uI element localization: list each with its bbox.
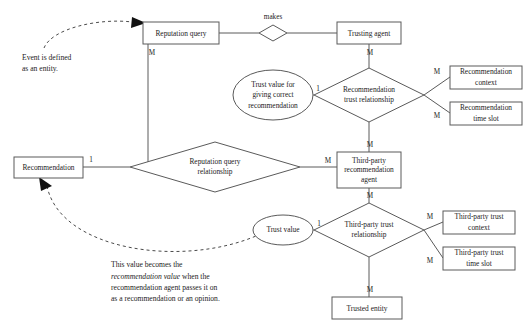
entity-third-party-trust-context[interactable]: Third-party trust context [443, 211, 515, 234]
entity-recommendation-context-label-line1: Recommendation [460, 67, 512, 76]
edge-rtr-to-recommendation-time-slot [424, 95, 450, 113]
cardinality-trust-value-correct-rec: 1 [316, 85, 320, 93]
event-note-connector [44, 21, 132, 48]
entity-trusted-entity[interactable]: Trusted entity [332, 297, 402, 319]
entity-recommendation-time-slot-label-line2: time slot [473, 114, 500, 123]
cardinality-recommendation-time-slot: M [434, 112, 441, 120]
entity-tp-trust-context-label-line2: context [468, 223, 491, 232]
annotation-recommendation-value-note-line1: This value becomes the [111, 260, 183, 269]
attribute-trust-value-label: Trust value [266, 225, 300, 234]
er-diagram-canvas: Reputation query Trusting agent Recommen… [0, 0, 527, 331]
entity-tp-trust-context-label-line1: Third-party trust [454, 212, 504, 221]
entity-trusted-entity-label: Trusted entity [347, 304, 388, 313]
annotation-event-note-line2: as an entity. [22, 64, 58, 73]
entity-third-party-recommendation-agent[interactable]: Third-party recommendation agent [337, 152, 401, 188]
annotation-line2-tail: when the [180, 271, 210, 280]
annotation-event-note-line1: Event is defined [22, 53, 72, 62]
relationship-recommendation-trust-label-line2: trust relationship [344, 95, 394, 104]
cardinality-trust-value: 1 [317, 220, 321, 228]
recommendation-value-note-arrowhead [39, 177, 52, 191]
relationship-reputation-query-label-line2: relationship [198, 167, 233, 176]
cardinality-tp-trust-context: M [427, 213, 434, 221]
entity-reputation-query-label: Reputation query [155, 29, 206, 38]
edge-tptr-to-tp-trust-time-slot [424, 230, 443, 258]
edge-tptr-to-tp-trust-context [424, 222, 443, 230]
annotation-recommendation-value-note-line3: recommendation agent passes it on [111, 283, 217, 292]
relationship-reputation-query-label-line1: Reputation query [189, 157, 240, 166]
relationship-reputation-query[interactable]: Reputation query relationship [130, 142, 300, 192]
entity-trusting-agent-label: Trusting agent [348, 29, 392, 38]
entity-tpra-label-line1: Third-party [352, 156, 386, 165]
relationship-third-party-trust[interactable]: Third-party trust relationship [314, 203, 424, 257]
entity-recommendation[interactable]: Recommendation [14, 157, 83, 178]
er-diagram: Reputation query Trusting agent Recommen… [0, 0, 527, 331]
entity-trusting-agent[interactable]: Trusting agent [337, 22, 401, 44]
entity-recommendation-time-slot[interactable]: Recommendation time slot [450, 102, 522, 125]
cardinality-tpra-left: M [325, 157, 332, 165]
relationship-makes-label: makes [264, 13, 283, 21]
annotation-recommendation-value-note-line4: as a recommendation or an opinion. [111, 294, 220, 303]
entity-recommendation-context[interactable]: Recommendation context [450, 66, 522, 89]
entity-tpra-label-line3: agent [361, 175, 378, 184]
entity-reputation-query[interactable]: Reputation query [143, 22, 219, 44]
cardinality-recommendation-context: M [434, 68, 441, 76]
annotation-event-note: Event is defined as an entity. [22, 53, 72, 73]
entity-tpra-label-line2: recommendation [344, 165, 394, 174]
attribute-trust-value[interactable]: Trust value [253, 215, 313, 245]
cardinality-trusting-agent-down: M [367, 49, 374, 57]
cardinality-tpra-bottom: M [367, 192, 374, 200]
entity-recommendation-label: Recommendation [22, 163, 74, 172]
relationship-recommendation-trust-label-line1: Recommendation [343, 85, 395, 94]
cardinality-tp-trust-time-slot: M [427, 257, 434, 265]
entity-tp-trust-time-slot-label-line1: Third-party trust [454, 248, 504, 257]
annotation-recommendation-value-note: This value becomes the recommendation va… [111, 260, 220, 304]
entity-third-party-trust-time-slot[interactable]: Third-party trust time slot [443, 247, 515, 270]
attribute-trust-value-for-giving-correct-recommendation[interactable]: Trust value for giving correct recommend… [233, 70, 313, 120]
recommendation-value-note-connector [47, 186, 256, 251]
cardinality-trusted-entity: M [367, 286, 374, 294]
attribute-trust-value-correct-rec-label-line2: giving correct [252, 90, 294, 99]
annotation-recommendation-value-note-line2: recommendation value when the [111, 271, 210, 280]
cardinality-tpra-top: M [367, 141, 374, 149]
relationship-third-party-trust-label-line2: relationship [352, 230, 387, 239]
entity-recommendation-context-label-line2: context [475, 78, 498, 87]
attribute-trust-value-correct-rec-label-line3: recommendation [248, 101, 298, 110]
attribute-trust-value-correct-rec-label-line1: Trust value for [251, 80, 295, 89]
entity-tp-trust-time-slot-label-line2: time slot [466, 259, 493, 268]
annotation-italic-recommendation-value: recommendation value [111, 271, 181, 280]
relationship-makes-diamond[interactable] [259, 25, 287, 41]
cardinality-recommendation-left: 1 [89, 156, 93, 164]
relationship-third-party-trust-label-line1: Third-party trust [344, 220, 394, 229]
entity-recommendation-time-slot-label-line1: Recommendation [460, 103, 512, 112]
relationship-makes[interactable]: makes [259, 13, 287, 41]
edge-rtr-to-recommendation-context [424, 77, 450, 95]
cardinality-reputation-query-down: M [149, 49, 156, 57]
relationship-recommendation-trust[interactable]: Recommendation trust relationship [314, 68, 424, 122]
